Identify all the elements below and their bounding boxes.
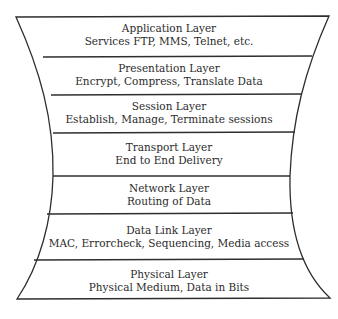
layer-description: Routing of Data — [0, 195, 338, 208]
layer-description: Encrypt, Compress, Translate Data — [0, 75, 338, 88]
layer-session: Session Layer Establish, Manage, Termina… — [0, 100, 338, 126]
layer-description: Services FTP, MMS, Telnet, etc. — [0, 35, 338, 48]
layer-name: Presentation Layer — [0, 62, 338, 75]
layer-network: Network Layer Routing of Data — [0, 182, 338, 208]
layer-name: Application Layer — [0, 22, 338, 35]
layer-physical: Physical Layer Physical Medium, Data in … — [0, 268, 338, 294]
layer-name: Physical Layer — [0, 268, 338, 281]
layer-data-link: Data Link Layer MAC, Errorcheck, Sequenc… — [0, 224, 338, 250]
layer-presentation: Presentation Layer Encrypt, Compress, Tr… — [0, 62, 338, 88]
layer-description: Physical Medium, Data in Bits — [0, 281, 338, 294]
layer-transport: Transport Layer End to End Delivery — [0, 141, 338, 167]
layer-name: Session Layer — [0, 100, 338, 113]
layer-name: Transport Layer — [0, 141, 338, 154]
layer-description: End to End Delivery — [0, 154, 338, 167]
layer-description: Establish, Manage, Terminate sessions — [0, 113, 338, 126]
layer-description: MAC, Errorcheck, Sequencing, Media acces… — [0, 237, 338, 250]
layer-name: Data Link Layer — [0, 224, 338, 237]
layer-application: Application Layer Services FTP, MMS, Tel… — [0, 22, 338, 48]
layer-name: Network Layer — [0, 182, 338, 195]
